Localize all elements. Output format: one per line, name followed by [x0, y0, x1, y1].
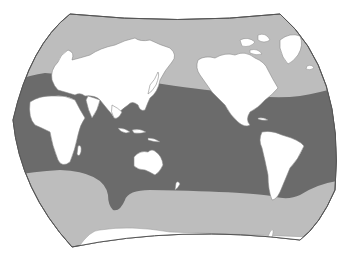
world-map-svg	[0, 0, 356, 263]
world-map	[0, 0, 356, 263]
